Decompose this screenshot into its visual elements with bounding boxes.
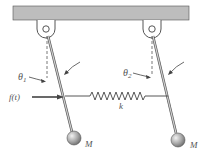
left-pivot — [37, 20, 55, 38]
right-mass-label: M — [189, 140, 198, 150]
ceiling-support — [13, 6, 189, 20]
left-rod — [48, 36, 72, 132]
force-arrow — [32, 95, 64, 100]
theta2-arrow-icon — [133, 73, 151, 79]
right-mass — [171, 133, 185, 147]
spring — [65, 92, 168, 100]
spring-constant-label: k — [119, 101, 124, 111]
theta2-label: θ2 — [123, 67, 132, 80]
left-rod-pointer-icon — [64, 62, 80, 75]
theta1-label: θ1 — [18, 71, 26, 84]
right-rod — [153, 36, 176, 133]
theta1-arrow-icon — [29, 77, 46, 83]
right-rod-pointer-icon — [168, 62, 184, 75]
force-label: f(t) — [9, 92, 20, 102]
left-mass-label: M — [84, 139, 93, 149]
left-mass — [67, 131, 81, 145]
coupled-pendulum-diagram: θ1 θ2 f(t) k M M — [0, 0, 213, 159]
right-pivot — [143, 20, 161, 38]
